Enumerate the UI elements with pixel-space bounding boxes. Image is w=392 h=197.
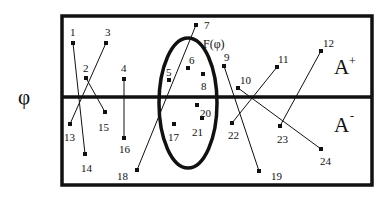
point-label-16: 16	[119, 143, 131, 155]
point-marker-18	[135, 168, 139, 172]
function-label: F(φ)	[203, 37, 225, 51]
region-label-upper: A +	[334, 54, 356, 79]
axis-symbol: φ	[18, 85, 30, 109]
point-label-17: 17	[168, 131, 180, 143]
point-marker-16	[122, 136, 126, 140]
point-marker-12	[319, 49, 323, 53]
link-3-13	[70, 43, 106, 124]
point-marker-10	[236, 86, 240, 90]
point-label-11: 11	[278, 53, 289, 65]
point-marker-1	[71, 41, 75, 45]
point-label-22: 22	[228, 129, 239, 141]
region-upper-sup: +	[349, 54, 356, 68]
point-label-21: 21	[192, 126, 203, 138]
point-marker-23	[278, 124, 282, 128]
point-marker-7	[194, 23, 198, 27]
point-marker-4	[122, 77, 126, 81]
point-marker-21	[200, 116, 204, 120]
point-label-15: 15	[98, 121, 110, 133]
point-label-4: 4	[121, 62, 127, 74]
point-label-18: 18	[117, 170, 129, 182]
point-marker-11	[275, 65, 279, 69]
point-marker-19	[257, 169, 261, 173]
diagram-canvas: 123456789101112131415161718192021222324 …	[0, 0, 392, 197]
point-label-2: 2	[83, 62, 89, 74]
point-marker-24	[319, 147, 323, 151]
region-label-lower: A -	[334, 109, 354, 137]
point-label-12: 12	[323, 37, 334, 49]
point-label-8: 8	[201, 80, 207, 92]
region-lower-letter: A	[334, 113, 350, 137]
point-label-9: 9	[224, 51, 230, 63]
point-label-24: 24	[320, 155, 332, 167]
point-marker-6	[186, 66, 190, 70]
point-label-13: 13	[64, 131, 76, 143]
region-lower-sup: -	[350, 109, 354, 123]
link-2-15	[86, 78, 105, 112]
point-label-6: 6	[189, 54, 195, 66]
point-label-1: 1	[70, 26, 76, 38]
point-marker-2	[84, 76, 88, 80]
point-marker-3	[104, 41, 108, 45]
point-label-3: 3	[105, 26, 111, 38]
point-label-7: 7	[204, 19, 210, 31]
point-label-10: 10	[240, 74, 252, 86]
point-marker-13	[68, 122, 72, 126]
point-label-14: 14	[81, 162, 93, 174]
point-label-19: 19	[271, 170, 283, 182]
point-marker-15	[103, 110, 107, 114]
link-11-22	[232, 67, 277, 123]
point-marker-14	[83, 152, 87, 156]
point-marker-5	[167, 78, 171, 82]
point-label-23: 23	[277, 133, 289, 145]
point-label-5: 5	[166, 66, 172, 78]
point-marker-8	[201, 72, 205, 76]
region-upper-letter: A	[334, 55, 350, 79]
point-marker-9	[222, 64, 226, 68]
point-marker-22	[230, 121, 234, 125]
point-marker-20	[195, 103, 199, 107]
function-ellipse	[159, 38, 217, 168]
point-marker-17	[172, 122, 176, 126]
